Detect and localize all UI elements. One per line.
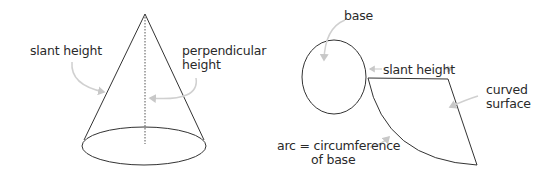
base-circle	[302, 40, 366, 114]
curved-surface-label-line1: curved	[486, 83, 528, 97]
perpendicular-height-label-line2: height	[182, 58, 221, 72]
perpendicular-height-pointer	[150, 78, 196, 99]
net-slant-height-label: slant height	[383, 63, 455, 77]
base-label: base	[344, 9, 373, 23]
perpendicular-height-label-line1: perpendicular	[182, 44, 266, 58]
curved-surface-label-line2: surface	[486, 97, 531, 111]
slant-height-label: slant height	[30, 44, 102, 58]
cone-shape	[82, 14, 206, 165]
cone-diagram	[0, 0, 543, 179]
slant-height-pointer	[72, 62, 104, 92]
arc-label-line1: arc = circumference	[277, 139, 400, 153]
arc-label-line2: of base	[311, 153, 355, 167]
